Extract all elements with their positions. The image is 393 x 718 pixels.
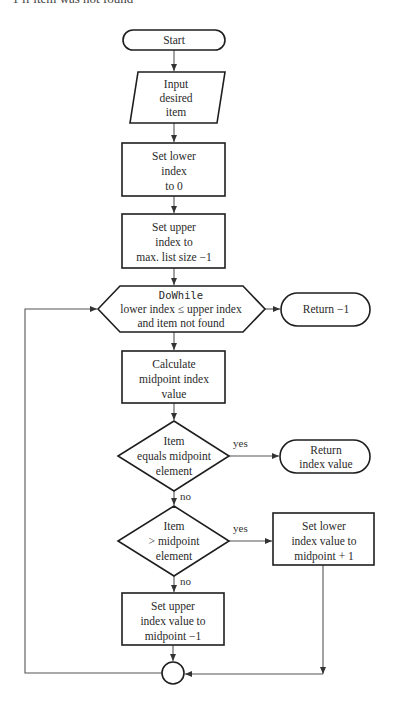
set-lower-mid-line2: index value to (291, 535, 356, 547)
binary-search-flowchart: Start Input desired item Set lower index… (0, 0, 393, 718)
set-lower-line1: Set lower (152, 150, 196, 162)
calc-mid-line1: Calculate (152, 358, 195, 370)
node-decision-equal: Item equals midpoint element yes no (118, 421, 248, 502)
node-calc-mid: Calculate midpoint index value (122, 351, 225, 403)
loop-condition-line2: and item not found (137, 317, 224, 329)
input-label-line3: item (166, 106, 186, 118)
return-found-line2: index value (299, 458, 352, 470)
set-upper-mid-line2: index value to (140, 615, 205, 627)
node-decision-greater: Item > midpoint element yes no (118, 506, 248, 587)
loop-condition-line1: lower index ≤ upper index (120, 303, 242, 316)
junction-connector-circle (162, 662, 184, 684)
set-lower-mid-line1: Set lower (302, 520, 346, 532)
set-upper-line2: index to (155, 236, 193, 248)
decision-equal-line3: element (156, 465, 193, 477)
node-set-lower: Set lower index to 0 (122, 143, 225, 196)
set-lower-line3: to 0 (165, 180, 183, 192)
node-return-found: Return index value (280, 440, 370, 473)
branch-yes-label: yes (233, 522, 248, 534)
calc-mid-line3: value (162, 388, 187, 400)
set-lower-mid-line3: midpoint + 1 (294, 550, 354, 563)
node-return-fail: Return −1 (281, 293, 370, 326)
branch-no-label: no (180, 490, 192, 502)
loop-keyword: DoWhile (159, 289, 203, 301)
return-found-line1: Return (310, 444, 342, 456)
node-start: Start (123, 30, 225, 50)
node-junction (162, 662, 184, 684)
node-input: Input desired item (130, 72, 225, 123)
input-label-line1: Input (164, 78, 189, 91)
set-upper-mid-line1: Set upper (151, 600, 195, 613)
start-label: Start (163, 34, 186, 46)
branch-no-label: no (180, 575, 192, 587)
branch-yes-label: yes (233, 437, 248, 449)
set-lower-line2: index (161, 165, 187, 177)
node-loop: DoWhile lower index ≤ upper index and it… (98, 286, 265, 332)
set-upper-line1: Set upper (152, 221, 196, 234)
node-set-upper: Set upper index to max. list size −1 (122, 214, 225, 268)
decision-greater-line1: Item (163, 520, 184, 532)
node-set-upper-mid: Set upper index value to midpoint −1 (122, 593, 224, 645)
input-label-line2: desired (159, 92, 192, 104)
decision-greater-line2: > midpoint (149, 535, 201, 548)
set-upper-mid-line3: midpoint −1 (145, 630, 202, 643)
return-fail-label: Return −1 (303, 303, 350, 315)
node-set-lower-mid: Set lower index value to midpoint + 1 (273, 513, 374, 565)
decision-equal-line1: Item (163, 435, 184, 447)
decision-equal-line2: equals midpoint (137, 450, 212, 463)
calc-mid-line2: midpoint index (139, 373, 209, 386)
decision-greater-line3: element (156, 550, 193, 562)
set-upper-line3: max. list size −1 (136, 251, 212, 263)
